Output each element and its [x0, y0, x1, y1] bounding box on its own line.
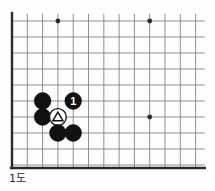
go-diagram-figure: 1 1도	[0, 0, 215, 191]
star-point	[147, 19, 152, 24]
go-board[interactable]: 1	[0, 0, 215, 191]
stone-black[interactable]: 1	[65, 93, 82, 110]
stone-black[interactable]	[50, 125, 67, 142]
stone-black[interactable]	[34, 109, 51, 126]
black-stone[interactable]	[50, 125, 67, 142]
figure-caption: 1도	[9, 172, 26, 185]
board-grid-layer	[12, 14, 205, 168]
star-point	[56, 19, 61, 24]
board-edge-layer	[11, 13, 205, 168]
black-stone[interactable]	[34, 93, 51, 110]
black-stone[interactable]	[65, 125, 82, 142]
star-point	[147, 115, 152, 120]
stone-white[interactable]	[50, 109, 67, 126]
black-stone[interactable]	[34, 109, 51, 126]
stone-move-number: 1	[70, 95, 76, 107]
screenshot-root: 1 1도	[0, 0, 215, 191]
stone-black[interactable]	[34, 93, 51, 110]
stone-black[interactable]	[65, 125, 82, 142]
